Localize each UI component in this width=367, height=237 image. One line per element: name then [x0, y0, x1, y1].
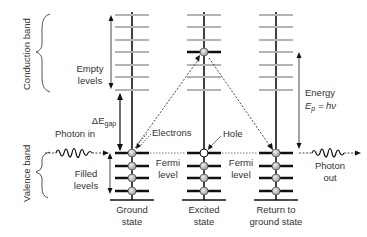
band-diagram: Conduction band Valence band Empty level…: [0, 0, 367, 237]
photon-in-wave: [45, 149, 109, 158]
hole-pointer: [208, 136, 221, 150]
empty-levels-arrow: [109, 15, 114, 89]
electrons-label: Electrons: [152, 127, 192, 138]
gap-arrow: [117, 93, 123, 151]
energy-arrow: [297, 52, 302, 149]
photon-out-label-2: out: [323, 172, 337, 183]
filled-levels-label: Filled: [75, 168, 98, 179]
filled-levels-arrow: [108, 153, 113, 194]
filled-levels-label-2: levels: [74, 180, 99, 191]
column-return-ground-state: [254, 12, 298, 200]
excited-electron-icon: [200, 48, 208, 56]
gap-label: ΔEgap: [92, 115, 116, 128]
state-label-return-2: ground state: [250, 216, 303, 227]
conduction-band-label: Conduction band: [21, 18, 32, 90]
valence-band-brace: [36, 152, 50, 198]
energy-equation: Ep = hν: [305, 100, 336, 113]
empty-levels-label-2: levels: [78, 75, 103, 86]
fermi-label-1b: level: [158, 169, 178, 180]
column-ground-state: [110, 12, 154, 200]
state-label-ground: Ground: [116, 204, 148, 215]
state-label-excited-2: state: [194, 216, 215, 227]
valence-band-label: Valence band: [21, 145, 32, 202]
fermi-label-2: Fermi: [229, 157, 253, 168]
photon-in-label: Photon in: [55, 128, 95, 139]
state-label-return: Return to: [256, 204, 295, 215]
column-excited-state: [182, 12, 226, 200]
conduction-band-brace: [36, 14, 50, 92]
energy-label: Energy: [305, 87, 335, 98]
hole-label: Hole: [223, 128, 243, 139]
fermi-label-2b: level: [231, 169, 251, 180]
hole-icon: [200, 149, 208, 157]
state-label-excited: Excited: [188, 204, 219, 215]
photon-out-wave: [299, 149, 361, 158]
photon-out-label: Photon: [315, 160, 345, 171]
state-label-ground-2: state: [122, 216, 143, 227]
fermi-label-1: Fermi: [156, 157, 180, 168]
empty-levels-label: Empty: [77, 63, 104, 74]
